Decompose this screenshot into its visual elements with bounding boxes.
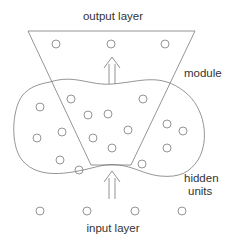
hidden-node (138, 160, 146, 168)
hidden-node (163, 144, 171, 152)
hidden-node (67, 95, 75, 103)
input-node (36, 207, 44, 215)
input-node (178, 207, 186, 215)
hidden-node (56, 156, 64, 164)
hidden-node (124, 126, 132, 134)
input-layer-label: input layer (86, 222, 139, 235)
hidden-node (163, 120, 171, 128)
hidden-node (58, 128, 66, 136)
input-node (131, 207, 139, 215)
input-node (83, 207, 91, 215)
hidden-node (139, 95, 147, 103)
output-layer-nodes (52, 40, 169, 48)
arrow-up-icon (104, 171, 120, 199)
hidden-node (179, 127, 187, 135)
modular-network-diagram: output layer module hidden units input l… (0, 0, 230, 244)
module-label: module (184, 67, 222, 80)
input-layer-nodes (36, 207, 186, 215)
hidden-node (84, 111, 92, 119)
output-node (52, 40, 60, 48)
hidden-node (89, 134, 97, 142)
hidden-units-label-line2: units (188, 185, 212, 198)
hidden-node (33, 134, 41, 142)
output-node (107, 40, 115, 48)
hidden-units-label-line1: hidden (184, 172, 219, 185)
output-node (161, 40, 169, 48)
hidden-node (108, 144, 116, 152)
hidden-layer-nodes (33, 95, 187, 174)
hidden-units-region (14, 79, 205, 176)
output-layer-label: output layer (83, 10, 143, 23)
diagram-graphics (0, 0, 230, 244)
arrow-up-icon (104, 57, 120, 84)
hidden-node (36, 103, 44, 111)
hidden-node (104, 110, 112, 118)
